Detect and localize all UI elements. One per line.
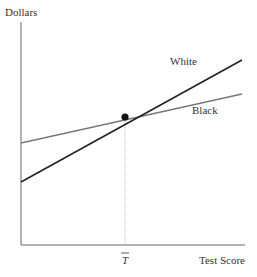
y-axis-label: Dollars: [5, 6, 37, 18]
x-tick-label-t-bar: T: [122, 254, 129, 266]
white-series-line: [21, 60, 242, 182]
black-series-line: [21, 94, 242, 143]
chart: Dollars White Black Test Score T: [0, 0, 257, 277]
black-series-label: Black: [192, 104, 218, 116]
intersection-point: [121, 113, 128, 120]
white-series-label: White: [170, 55, 197, 67]
x-axis-label: Test Score: [199, 254, 245, 266]
